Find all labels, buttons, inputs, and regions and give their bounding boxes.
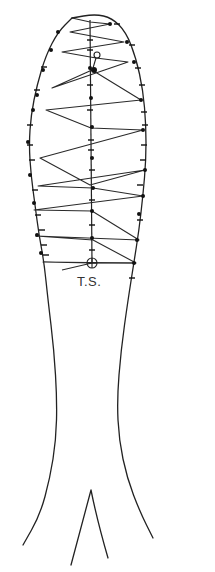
lattice-node (108, 22, 112, 26)
lattice-node (90, 156, 94, 160)
lattice-node (135, 238, 139, 242)
lattice-node (139, 98, 143, 102)
lattice-node (90, 125, 94, 129)
lattice-node (28, 173, 32, 177)
figure-canvas (0, 0, 215, 572)
lattice-node (132, 60, 136, 64)
ts-crossline (62, 263, 136, 270)
lattice-node (141, 128, 145, 132)
lattice-node (31, 108, 35, 112)
small-circle-marker (94, 52, 100, 58)
lattice-node (89, 96, 93, 100)
lattice-node (125, 40, 129, 44)
lattice-nodes (26, 22, 147, 265)
lattice-node (137, 212, 141, 216)
lattice-node (90, 236, 94, 240)
lattice-node (132, 261, 136, 265)
lattice-node (56, 30, 60, 34)
lattice-node (32, 201, 36, 205)
tail-fork (71, 490, 108, 565)
lattice-node (90, 209, 94, 213)
lattice-node (49, 48, 53, 52)
lattice-node (143, 168, 147, 172)
lattice-node (35, 233, 39, 237)
lattice-node (41, 68, 45, 72)
lattice-node (26, 140, 30, 144)
small-circle-stem (93, 58, 96, 68)
body-outline (23, 15, 153, 565)
cluster-node (91, 67, 97, 73)
lattice-node (141, 194, 145, 198)
outline-left-edge (23, 18, 72, 545)
lattice-node (91, 186, 95, 190)
ts-label: T.S. (77, 274, 101, 289)
lattice-node (35, 93, 39, 97)
lattice-node (39, 251, 43, 255)
